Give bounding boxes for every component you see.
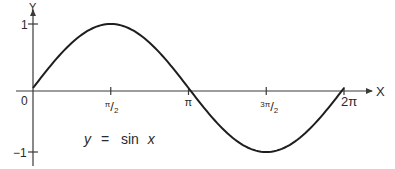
- x-tick-label: π/2: [105, 99, 119, 115]
- equation-func: sin: [121, 131, 139, 147]
- equation-y: y: [83, 131, 92, 147]
- x-tick-label-numerator: 3π: [260, 100, 270, 109]
- origin-label: 0: [21, 94, 28, 108]
- x-tick-label: 2π: [341, 94, 357, 109]
- y-tick-label: −1: [13, 146, 27, 160]
- y-axis-label: Y: [29, 1, 37, 13]
- equation-x: x: [147, 131, 156, 147]
- sine-chart: X Y 0 π/2π3π/22π 1−1 y = sin x: [0, 0, 395, 169]
- sine-curve: [33, 24, 344, 152]
- y-ticks: 1−1: [13, 18, 38, 160]
- x-axis-label: X: [376, 84, 385, 99]
- x-tick-label: π: [185, 96, 193, 108]
- x-tick-label: 3π/2: [260, 99, 279, 115]
- y-tick-label: 1: [21, 18, 28, 32]
- equation-equals: =: [101, 131, 109, 147]
- x-tick-label-denominator: 2: [274, 106, 279, 115]
- equation-annotation: y = sin x: [83, 131, 156, 147]
- x-tick-label-denominator: 2: [114, 106, 119, 115]
